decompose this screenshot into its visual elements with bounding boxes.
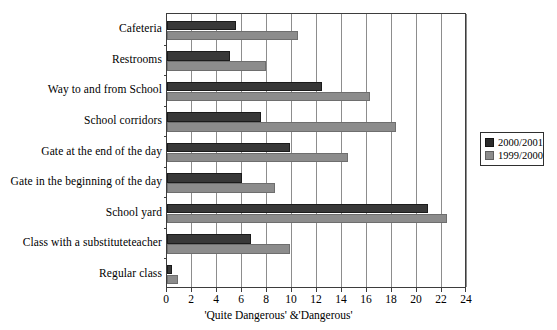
bar — [167, 122, 396, 132]
legend-item[interactable]: 2000/2001 — [485, 136, 543, 149]
category-label: Gate at the end of the day — [0, 145, 162, 157]
bar — [167, 183, 275, 193]
bar — [167, 173, 242, 183]
y-axis-tick — [164, 136, 167, 137]
bar — [167, 244, 290, 254]
bar — [167, 31, 298, 41]
category-label: Class with a substituteteacher — [0, 236, 162, 248]
category-label: Regular class — [0, 267, 162, 279]
bar — [167, 214, 447, 224]
category-label: Way to and from School — [0, 83, 162, 95]
legend-swatch-1999-2000-icon — [485, 151, 494, 160]
bar — [167, 234, 251, 244]
category-axis-labels: CafeteriaRestroomsWay to and from School… — [0, 13, 162, 288]
legend-swatch-2000-2001-icon — [485, 138, 494, 147]
legend: 2000/2001 1999/2000 — [480, 132, 544, 166]
gridline — [341, 14, 342, 287]
bar — [167, 21, 236, 31]
category-label: Restrooms — [0, 53, 162, 65]
x-axis-tick-labels: 024681012141618202224 — [146, 292, 486, 308]
gridline — [291, 14, 292, 287]
bar — [167, 92, 370, 102]
bar — [167, 265, 172, 275]
category-label: School yard — [0, 206, 162, 218]
gridline — [416, 14, 417, 287]
legend-item[interactable]: 1999/2000 — [485, 149, 543, 162]
bar — [167, 153, 348, 163]
y-axis-tick — [164, 106, 167, 107]
y-axis-tick — [164, 228, 167, 229]
y-axis-tick — [164, 197, 167, 198]
x-axis-tick-label: 24 — [446, 292, 486, 306]
bar — [167, 204, 428, 214]
y-axis-tick — [164, 167, 167, 168]
category-label: Cafeteria — [0, 22, 162, 34]
bar — [167, 112, 261, 122]
bar-chart: CafeteriaRestroomsWay to and from School… — [0, 0, 557, 330]
y-axis-tick — [164, 45, 167, 46]
gridline — [466, 14, 467, 287]
x-axis-title: 'Quite Dangerous' &'Dangerous' — [0, 308, 557, 322]
bar — [167, 143, 290, 153]
y-axis-tick — [164, 258, 167, 259]
gridline — [366, 14, 367, 287]
legend-label: 1999/2000 — [498, 150, 543, 161]
bar — [167, 61, 266, 71]
category-label: School corridors — [0, 114, 162, 126]
gridline — [441, 14, 442, 287]
legend-label: 2000/2001 — [498, 137, 543, 148]
bar — [167, 82, 322, 92]
y-axis-tick — [164, 75, 167, 76]
plot-area — [166, 13, 466, 288]
gridline — [391, 14, 392, 287]
category-label: Gate in the beginning of the day — [0, 175, 162, 187]
bar — [167, 275, 178, 285]
footer-caption — [0, 324, 557, 330]
gridline — [316, 14, 317, 287]
bar — [167, 51, 230, 61]
